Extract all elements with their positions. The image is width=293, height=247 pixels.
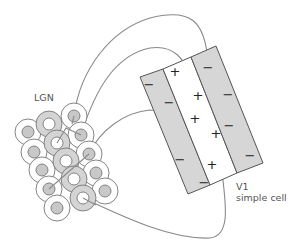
cell-center bbox=[68, 173, 80, 185]
plus-sign: + bbox=[170, 64, 181, 79]
cell-center bbox=[36, 164, 48, 176]
diagram-canvas: − − − − + + + + + − − − − bbox=[0, 0, 293, 247]
minus-sign: − bbox=[164, 95, 175, 110]
cell-center bbox=[28, 146, 40, 158]
cell-center bbox=[22, 126, 34, 138]
minus-sign: − bbox=[203, 60, 214, 75]
plus-sign: + bbox=[190, 111, 201, 126]
minus-sign: − bbox=[245, 148, 256, 163]
cell-center bbox=[99, 185, 111, 197]
cell-center bbox=[51, 202, 63, 214]
minus-sign: − bbox=[224, 118, 235, 133]
minus-sign: − bbox=[199, 175, 210, 190]
cell-center bbox=[60, 155, 72, 167]
lgn-on-center-cell bbox=[44, 195, 70, 221]
minus-sign: − bbox=[175, 152, 186, 167]
lgn-label: LGN bbox=[34, 92, 54, 103]
cell-center bbox=[90, 167, 102, 179]
plus-sign: + bbox=[211, 126, 222, 141]
minus-sign: − bbox=[223, 87, 234, 102]
v1-label-line2: simple cell bbox=[236, 192, 287, 203]
plus-sign: + bbox=[207, 157, 218, 172]
plus-sign: + bbox=[193, 88, 204, 103]
v1-label: V1 simple cell bbox=[236, 181, 287, 203]
cell-center bbox=[43, 118, 55, 130]
v1-label-line1: V1 bbox=[236, 181, 287, 192]
minus-sign: − bbox=[144, 77, 155, 92]
